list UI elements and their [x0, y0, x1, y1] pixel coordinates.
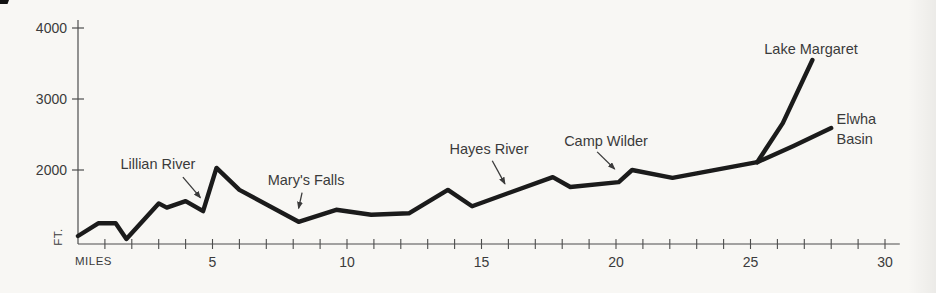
x-tick-label: 25 — [743, 254, 759, 270]
annotation-label: Camp Wilder — [564, 133, 648, 149]
y-axis-title: FT. — [52, 228, 64, 245]
x-tick-label: 10 — [339, 254, 355, 270]
elevation-profile-chart: 200030004000 51015202530 FT. MILES Lilli… — [0, 0, 936, 293]
annotation-label: Mary's Falls — [268, 172, 345, 188]
y-tick-label: 4000 — [36, 20, 67, 36]
annotation-label: Elwha — [837, 111, 877, 127]
x-tick-label: 30 — [877, 254, 893, 270]
chart-canvas: 200030004000 51015202530 FT. MILES Lilli… — [0, 0, 936, 293]
annotation-label: Hayes River — [450, 141, 529, 157]
x-axis-title: MILES — [75, 255, 112, 267]
y-tick-label: 3000 — [36, 91, 67, 107]
y-tick-label: 2000 — [36, 162, 67, 178]
x-tick-label: 5 — [209, 254, 217, 270]
annotation-label: Basin — [837, 131, 873, 147]
scan-corner-mark — [0, 0, 9, 4]
x-tick-label: 20 — [608, 254, 624, 270]
x-tick-label: 15 — [474, 254, 490, 270]
annotation-label: Lake Margaret — [764, 41, 858, 57]
annotation-label: Lillian River — [120, 156, 195, 172]
